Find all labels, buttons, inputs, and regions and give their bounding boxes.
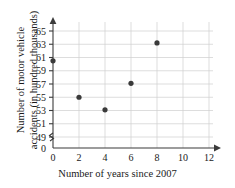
x-tick-label: 12 (204, 152, 214, 163)
x-axis-title: Number of years since 2007 (0, 168, 235, 179)
x-axis-arrow-icon (214, 145, 221, 152)
scatter-plot-figure: 4951535557596163650 024681012 Number of … (0, 0, 235, 188)
y-axis-title-line-2: accidents (in hundred thousands) (26, 0, 186, 160)
